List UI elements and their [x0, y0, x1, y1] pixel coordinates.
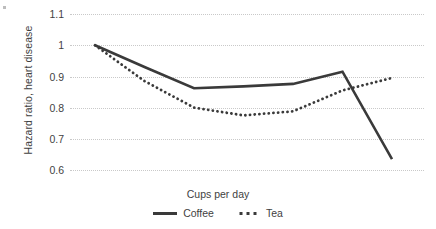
y-tick-label: 1.1 — [22, 9, 64, 20]
y-tick-label: 0.9 — [22, 72, 64, 83]
legend-label-coffee: Coffee — [183, 208, 214, 219]
legend-swatch-dotted-icon — [236, 212, 260, 215]
y-tick-label: 0.6 — [22, 165, 64, 176]
legend-item-coffee: Coffee — [153, 208, 214, 219]
y-tick-label: 0.8 — [22, 103, 64, 114]
hazard-ratio-line-chart: Hazard ratio, heart disease 1.1 1 0.9 0.… — [0, 0, 436, 229]
legend-item-tea: Tea — [236, 208, 283, 219]
corner-artifact — [3, 6, 6, 9]
legend-swatch-solid-icon — [153, 212, 177, 215]
legend-label-tea: Tea — [266, 208, 283, 219]
series-line-coffee — [95, 45, 392, 159]
chart-legend: Coffee Tea — [0, 208, 436, 219]
y-tick-label: 0.7 — [22, 134, 64, 145]
x-axis-title: Cups per day — [0, 188, 436, 200]
y-tick-label: 1 — [22, 40, 64, 51]
